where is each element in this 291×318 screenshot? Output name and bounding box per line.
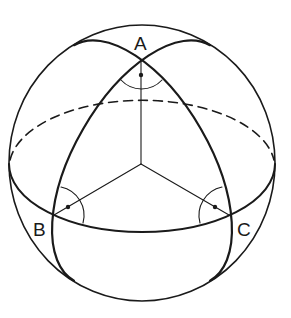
- angle-dot-A: [139, 73, 143, 77]
- angle-dot-C: [213, 205, 217, 209]
- spherical-triangle-diagram: A B C: [0, 0, 291, 318]
- vertex-label-B: B: [33, 219, 46, 240]
- great-circle-AC: [74, 11, 269, 281]
- equator-back-dashed: [10, 100, 274, 160]
- great-circle-AB: [15, 11, 210, 281]
- equator-front: [9, 164, 275, 232]
- sphere-outline: [9, 25, 275, 301]
- diagram-canvas: A B C: [0, 0, 291, 318]
- angle-arc-B: [61, 187, 84, 223]
- vertex-label-C: C: [237, 219, 251, 240]
- angle-dot-B: [66, 205, 70, 209]
- angle-arc-C: [199, 187, 222, 223]
- vertex-label-A: A: [134, 33, 147, 54]
